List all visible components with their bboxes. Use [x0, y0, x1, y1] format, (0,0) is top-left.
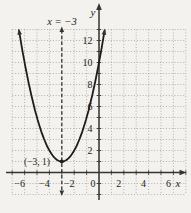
- x-tick-label: 4: [141, 178, 146, 189]
- y-tick-label: 2: [88, 145, 93, 156]
- x-tick-label: 6: [166, 178, 171, 189]
- vertex-point: [60, 160, 64, 164]
- dashed-line-down-arrow: [60, 191, 65, 197]
- y-tick-label: 4: [88, 123, 93, 134]
- x-axis-label: x: [175, 177, 181, 189]
- vertex-label: (−3, 1): [24, 157, 50, 168]
- x-tick-label: 2: [116, 178, 121, 189]
- x-tick-label: −4: [39, 178, 50, 189]
- x-tick-label: −2: [64, 178, 75, 189]
- y-axis-label: y: [90, 6, 96, 18]
- x-tick-label: −6: [14, 178, 25, 189]
- symmetry-line-label: x = −3: [46, 16, 76, 27]
- dashed-line-up-arrow: [60, 27, 65, 33]
- y-tick-label: 8: [88, 79, 93, 90]
- y-tick-label: 6: [88, 101, 93, 112]
- y-tick-label: 10: [83, 57, 93, 68]
- x-tick-label: 0: [91, 178, 96, 189]
- y-tick-label: 12: [83, 35, 93, 46]
- y-axis-arrow: [96, 3, 102, 10]
- parabola-graph: −6−4−2024624681012 y x x = −3 (−3, 1): [0, 0, 191, 213]
- graph-figure: −6−4−2024624681012 y x x = −3 (−3, 1): [0, 0, 191, 213]
